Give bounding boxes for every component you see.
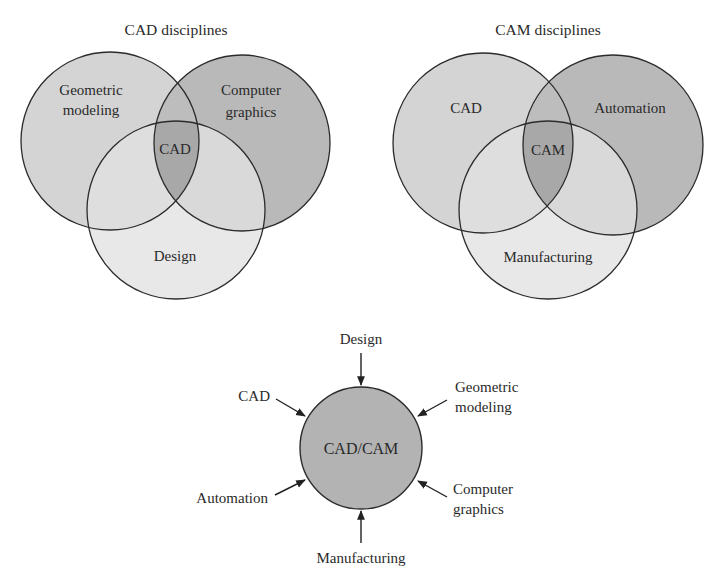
cam-intersection-label: CAM — [531, 142, 565, 158]
hub-input-computer-graphics-2: graphics — [453, 501, 504, 517]
hub-input-manufacturing: Manufacturing — [316, 550, 406, 566]
hub-input-design: Design — [340, 331, 383, 347]
cad-set-label: CAD — [450, 100, 482, 116]
hub-input-cad: CAD — [238, 388, 270, 404]
computer-graphics-label-2: graphics — [226, 104, 277, 120]
hub-input-automation: Automation — [196, 490, 268, 506]
cad-venn-title: CAD disciplines — [125, 21, 228, 38]
cad-intersection-label: CAD — [159, 141, 191, 157]
cad-cam-hub-label: CAD/CAM — [324, 440, 399, 457]
hub-input-computer-graphics-1: Computer — [453, 481, 513, 497]
arrow-automation-icon — [275, 480, 305, 495]
hub-input-geometric-modeling-2: modeling — [455, 399, 512, 415]
automation-label: Automation — [594, 100, 666, 116]
arrow-computer-graphics-icon — [418, 481, 447, 497]
cam-venn-title: CAM disciplines — [495, 21, 601, 38]
hub-input-geometric-modeling-1: Geometric — [455, 379, 519, 395]
arrow-cad-icon — [276, 399, 305, 416]
cam-venn-diagram: CAM disciplines CAD Automation Manufactu… — [393, 21, 703, 299]
geometric-modeling-label-2: modeling — [63, 102, 120, 118]
design-label: Design — [154, 248, 197, 264]
cad-venn-diagram: CAD disciplines Geometric modeling Compu… — [21, 21, 330, 299]
geometric-modeling-label-1: Geometric — [59, 82, 123, 98]
cad-cam-figure: CAD disciplines Geometric modeling Compu… — [0, 0, 719, 576]
manufacturing-label: Manufacturing — [503, 249, 593, 265]
arrow-geometric-modeling-icon — [418, 400, 447, 416]
computer-graphics-label-1: Computer — [221, 82, 281, 98]
cad-cam-hub-diagram: CAD/CAM Design CAD Geometric modeling Au… — [196, 331, 518, 566]
